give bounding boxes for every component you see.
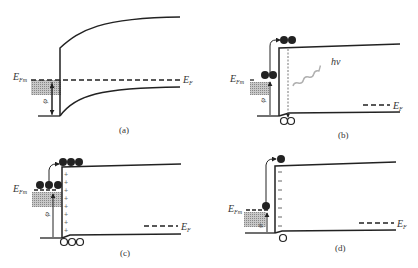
positive-charges: +++ +++ ++: [64, 171, 68, 234]
metal-fermi-label: EFm: [227, 203, 243, 215]
caption-c: (c): [120, 248, 130, 258]
panel-d: EFm EF φ (d): [227, 155, 407, 253]
emission-arrow: [49, 164, 59, 184]
svg-text:+: +: [64, 187, 68, 194]
electron-icon: [54, 181, 62, 189]
photon-wave-icon: [291, 66, 323, 88]
hole-icon: [288, 118, 295, 125]
panel-b: EFm EF hν φ (b): [229, 36, 403, 140]
hole-icon: [77, 239, 84, 246]
metal-fill: [32, 192, 62, 207]
hole-icon: [280, 235, 287, 242]
electron-icon: [45, 181, 53, 189]
barrier-label: φ: [258, 96, 268, 104]
semi-fermi-label: EF: [392, 100, 403, 112]
negative-charges: [278, 172, 282, 226]
electron-icon: [67, 158, 75, 166]
caption-b: (b): [338, 130, 349, 140]
metal-fermi-label: EFm: [12, 71, 28, 83]
svg-text:+: +: [64, 195, 68, 202]
electron-icon: [269, 71, 277, 79]
metal-fermi-label: EFm: [229, 73, 245, 85]
caption-a: (a): [119, 125, 129, 135]
svg-text:+: +: [64, 219, 68, 226]
conduction-band: [62, 164, 181, 238]
electron-icon: [36, 181, 44, 189]
barrier-label: φ: [40, 97, 50, 105]
band-diagram-figure: EFm EF φ (a) EFm EF hν φ (b): [0, 0, 418, 268]
electron-icon: [280, 36, 288, 44]
barrier-label: φ: [42, 210, 52, 218]
hole-icon: [281, 118, 288, 125]
svg-text:+: +: [64, 203, 68, 210]
electron-icon: [75, 158, 83, 166]
valence-band: [62, 234, 181, 238]
electron-icon: [277, 155, 285, 163]
photon-label: hν: [331, 56, 341, 67]
semi-fermi-label: EF: [396, 218, 407, 230]
metal-fermi-label: EFm: [12, 183, 28, 195]
semi-fermi-label: EF: [182, 74, 193, 86]
metal-fill: [250, 82, 269, 95]
svg-text:+: +: [64, 211, 68, 218]
panel-a: EFm EF φ (a): [12, 17, 193, 135]
panel-c: +++ +++ ++ EFm EF φ (c): [12, 158, 191, 258]
caption-d: (d): [335, 243, 346, 253]
electron-icon: [288, 36, 296, 44]
svg-text:+: +: [64, 227, 68, 234]
svg-text:+: +: [64, 179, 68, 186]
valence-band: [275, 230, 396, 233]
electron-icon: [261, 71, 269, 79]
semi-fermi-label: EF: [180, 221, 191, 233]
metal-fill: [31, 80, 61, 95]
valence-band: [279, 112, 400, 116]
valence-band: [60, 87, 180, 116]
svg-text:+: +: [64, 171, 68, 178]
electron-icon: [262, 202, 270, 210]
hole-icon: [61, 239, 68, 246]
hole-icon: [69, 239, 76, 246]
electron-icon: [59, 158, 67, 166]
